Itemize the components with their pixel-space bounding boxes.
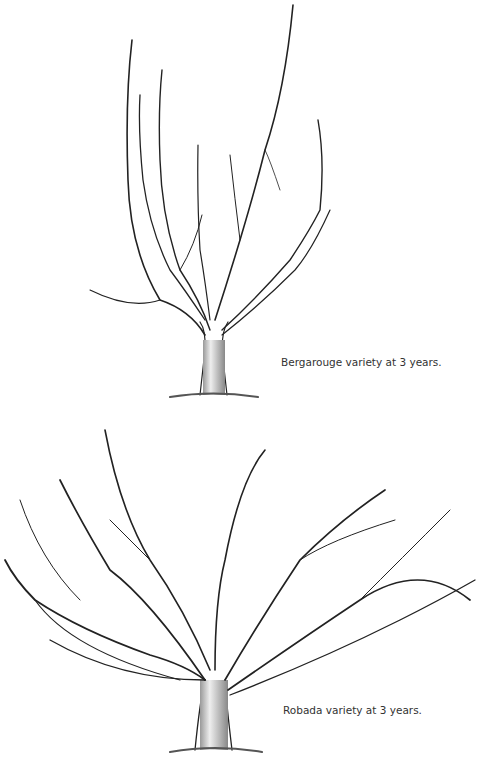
figure-caption-robada: Robada variety at 3 years. [283, 704, 422, 716]
figure-caption-bergarouge: Bergarouge variety at 3 years. [281, 356, 442, 368]
bergarouge-tree [90, 5, 330, 397]
tree-illustrations [0, 0, 483, 766]
